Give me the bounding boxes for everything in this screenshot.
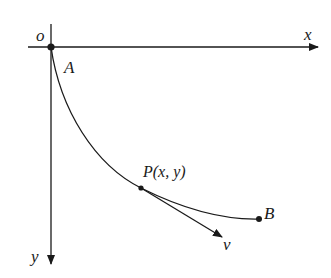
point-p-label: P(x, y) [142,163,186,181]
x-axis-label: x [303,25,312,44]
curve-a-to-b [51,47,259,219]
y-axis-label: y [29,247,39,266]
point-p [138,185,143,190]
point-b-label: B [264,204,275,223]
velocity-vector [141,188,222,237]
velocity-label: v [223,235,231,254]
point-a-label: A [63,58,75,77]
origin-point [47,43,54,50]
origin-label: o [36,26,45,45]
brachistochrone-diagram: o x y A P(x, y) B v [0,0,331,278]
point-b [256,216,262,222]
